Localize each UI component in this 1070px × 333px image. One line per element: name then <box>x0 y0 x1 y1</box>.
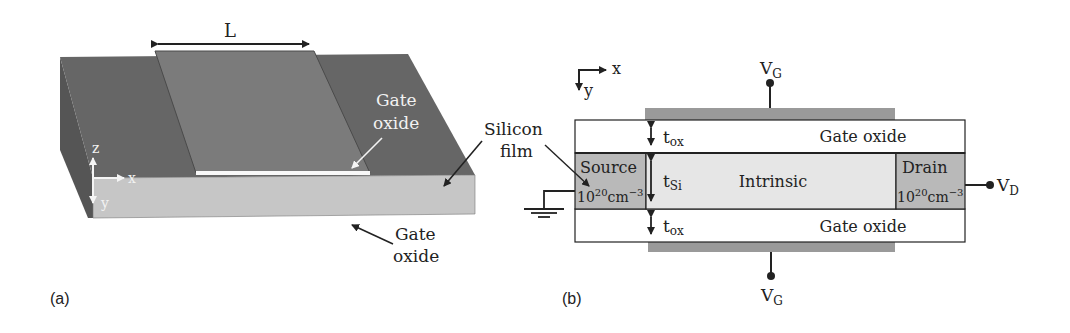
panel-b-caption: (b) <box>562 290 582 307</box>
bottom-oxide-label: Gate oxide <box>820 217 907 236</box>
axis-x-label-b: x <box>612 59 621 78</box>
top-gate-electrode <box>645 108 895 120</box>
panel-a-3d-device: L z x y Gate oxide Gate oxide Silicon fi… <box>50 20 548 307</box>
top-oxide-label: Gate oxide <box>820 127 907 146</box>
svg-text:VD: VD <box>996 175 1019 198</box>
channel-label: Intrinsic <box>739 172 807 191</box>
axis-y-label: y <box>100 195 109 211</box>
terminal-dot-icon <box>767 272 775 280</box>
ground-icon <box>524 191 575 217</box>
axis-x-label: x <box>128 170 136 186</box>
gate-oxide-bottom-arrow <box>352 225 393 244</box>
terminal-dot-icon <box>986 181 994 189</box>
axis-y-label-b: y <box>583 81 593 100</box>
svg-text:VG: VG <box>760 285 783 308</box>
bottom-gate-oxide <box>575 209 965 242</box>
silicon-film-label: Silicon film <box>484 119 548 161</box>
axis-z-label: z <box>92 140 99 156</box>
gate-oxide-strip <box>196 171 370 175</box>
bottom-gate-electrode <box>648 242 895 252</box>
source-label: Source <box>580 158 637 177</box>
figure-canvas: L z x y Gate oxide Gate oxide Silicon fi… <box>0 0 1070 333</box>
svg-text:VG: VG <box>759 58 782 81</box>
top-gate-terminal: VG <box>759 58 782 108</box>
length-label: L <box>224 20 236 41</box>
panel-a-caption: (a) <box>50 290 70 307</box>
gate-oxide-bottom-label: Gate oxide <box>393 224 441 266</box>
bottom-gate-terminal: VG <box>760 252 783 308</box>
top-gate-oxide <box>575 120 965 153</box>
silicon-film-front-face <box>93 175 475 218</box>
panel-b-cross-section: x y Gate oxide Gate oxide tox tSi tox So… <box>524 58 1019 308</box>
drain-terminal: VD <box>965 175 1019 198</box>
drain-label: Drain <box>902 158 947 177</box>
